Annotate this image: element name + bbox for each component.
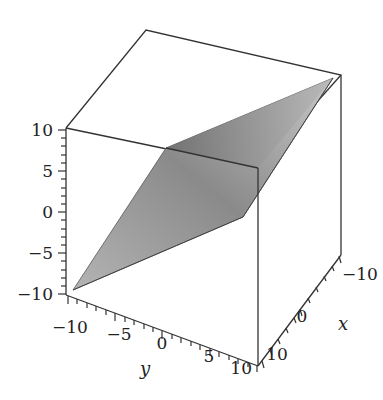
x-tick-0: 0	[297, 306, 308, 326]
y-tick-5: 5	[204, 346, 215, 366]
surface	[73, 78, 333, 290]
x-tick-10: 10	[266, 344, 288, 364]
z-tick-0: 0	[42, 202, 53, 222]
z-axis-ticks	[58, 130, 66, 294]
z-tick-minus5: −5	[28, 243, 53, 263]
y-axis-label: y	[139, 358, 151, 379]
y-tick-10: 10	[230, 358, 252, 378]
y-tick-minus5: −5	[106, 324, 131, 344]
y-tick-0: 0	[157, 333, 168, 353]
x-axis-label: x	[338, 313, 348, 334]
x-tick-minus10: −10	[342, 264, 378, 284]
z-tick-10: 10	[31, 120, 53, 140]
y-tick-minus10: −10	[52, 317, 88, 337]
z-tick-5: 5	[42, 161, 53, 181]
z-tick-minus10: −10	[17, 284, 53, 304]
plot-3d: 10 5 0 −5 −10 −10 −5 0 5 10 y 10 0 −10 x	[0, 0, 383, 400]
